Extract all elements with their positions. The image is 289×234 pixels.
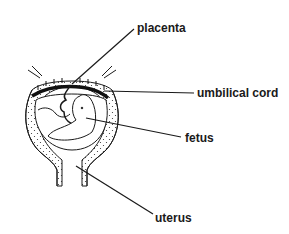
uterus-label: uterus [155, 211, 192, 225]
fetus-label: fetus [185, 131, 214, 145]
umbilical-cord-label: umbilical cord [197, 86, 278, 100]
umbilical-cord-leader [104, 91, 194, 93]
placenta-label: placenta [137, 21, 186, 35]
uterus-leader [76, 166, 153, 214]
placenta-leader [72, 29, 134, 84]
uterus-diagram: placenta umbilical cord fetus uterus [0, 0, 289, 234]
